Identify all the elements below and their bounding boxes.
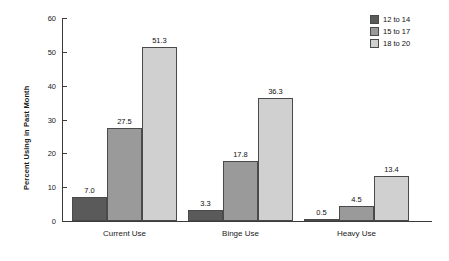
- bar-binge-use-18-to-20: [258, 98, 293, 221]
- bar-binge-use-12-to-14: [188, 210, 223, 221]
- plot-area: 0102030405060 7.027.551.33.317.836.30.54…: [62, 18, 432, 222]
- legend-label-1: 15 to 17: [383, 27, 410, 36]
- y-tick-50: [63, 52, 67, 53]
- bar-binge-use-15-to-17: [223, 161, 258, 221]
- y-tick-label-30: 30: [48, 115, 56, 124]
- bar-current-use-18-to-20: [142, 47, 177, 221]
- y-tick-label-10: 10: [48, 183, 56, 192]
- bar-value-label: 36.3: [268, 87, 283, 96]
- bar-value-label: 51.3: [152, 36, 167, 45]
- bar-value-label: 27.5: [117, 117, 132, 126]
- bar-heavy-use-12-to-14: [304, 219, 339, 221]
- x-category-label-current-use: Current Use: [103, 229, 146, 238]
- legend: 12 to 14 15 to 17 18 to 20: [370, 14, 410, 48]
- x-category-label-heavy-use: Heavy Use: [337, 229, 376, 238]
- y-tick-label-20: 20: [48, 149, 56, 158]
- bar-value-label: 0.5: [316, 208, 326, 217]
- y-tick-label-40: 40: [48, 81, 56, 90]
- y-tick-40: [63, 86, 67, 87]
- legend-item-2: 18 to 20: [370, 38, 410, 48]
- bar-value-label: 3.3: [200, 199, 210, 208]
- y-tick-label-0: 0: [52, 217, 56, 226]
- bar-heavy-use-15-to-17: [339, 206, 374, 221]
- bar-value-label: 4.5: [351, 195, 361, 204]
- legend-swatch-icon-2: [370, 39, 379, 48]
- bar-value-label: 7.0: [84, 186, 94, 195]
- bar-current-use-15-to-17: [107, 128, 142, 221]
- bar-value-label: 17.8: [233, 150, 248, 159]
- x-category-label-binge-use: Binge Use: [222, 229, 259, 238]
- y-tick-0: [63, 221, 67, 222]
- y-tick-30: [63, 120, 67, 121]
- legend-item-1: 15 to 17: [370, 26, 410, 36]
- bar-heavy-use-18-to-20: [374, 176, 409, 221]
- legend-swatch-icon-0: [370, 15, 379, 24]
- bar-current-use-12-to-14: [72, 197, 107, 221]
- x-axis-line: [62, 221, 432, 222]
- bar-chart: Percent Using in Past Month 010203040506…: [0, 0, 449, 261]
- legend-item-0: 12 to 14: [370, 14, 410, 24]
- y-tick-label-50: 50: [48, 47, 56, 56]
- legend-swatch-icon-1: [370, 27, 379, 36]
- y-axis-title: Percent Using in Past Month: [22, 70, 31, 190]
- bar-value-label: 13.4: [384, 165, 399, 174]
- y-tick-60: [63, 18, 67, 19]
- legend-label-2: 18 to 20: [383, 39, 410, 48]
- y-tick-20: [63, 153, 67, 154]
- y-tick-label-60: 60: [48, 14, 56, 23]
- y-tick-10: [63, 187, 67, 188]
- legend-label-0: 12 to 14: [383, 15, 410, 24]
